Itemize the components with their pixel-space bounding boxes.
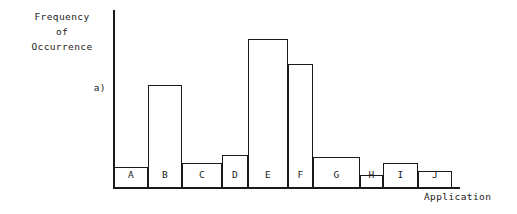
bar-g — [313, 157, 360, 188]
bar-c — [182, 163, 222, 188]
bar-j — [418, 171, 452, 188]
bar-d — [222, 155, 248, 188]
frequency-of-occurrence-bar-chart: Frequency of Occurrence a) ABCDEFGHIJ Ap… — [0, 0, 517, 214]
bar-e — [248, 39, 288, 188]
bar-i — [383, 163, 418, 188]
bar-series: ABCDEFGHIJ — [0, 0, 517, 214]
bar-f — [288, 64, 313, 188]
x-axis-label: Application — [424, 191, 491, 203]
bar-h — [360, 175, 383, 188]
bar-a — [114, 167, 148, 188]
bar-b — [148, 85, 182, 188]
